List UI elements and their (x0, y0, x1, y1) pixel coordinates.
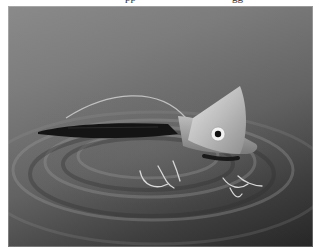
lure-photo-illustration (8, 6, 313, 247)
hook (230, 188, 242, 197)
lure-eye-pupil (215, 131, 221, 137)
clipped-caption-text: pp gg (0, 0, 319, 3)
lure-head (188, 86, 246, 154)
clipped-text-right: gg (232, 0, 243, 3)
line-wire (66, 96, 186, 118)
lure-lip (38, 123, 178, 138)
lure-mouth (204, 156, 238, 159)
lure-photo (8, 6, 313, 247)
clipped-text-left: pp (125, 0, 136, 3)
